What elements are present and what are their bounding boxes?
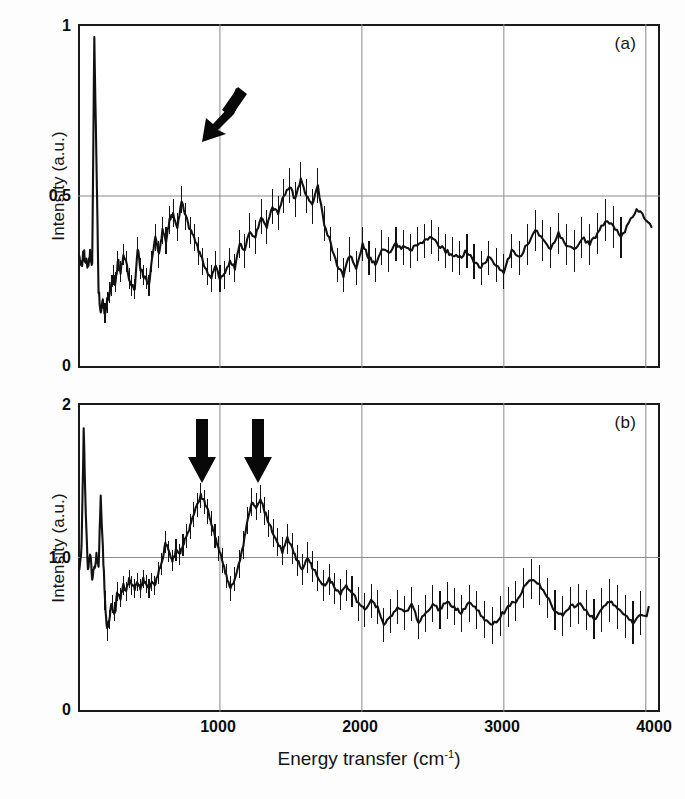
panel-b-ytick-0: 0 [62,702,71,718]
xtick-4000: 4000 [636,719,672,735]
figure-container: 1 0.5 0 Intensity (a.u.) (a) 2 1.0 0 100… [0,0,685,799]
xtick-1000: 1000 [200,719,236,735]
xtick-2000: 2000 [342,719,378,735]
panel-b: 2 1.0 0 1000 2000 3000 4000 Intensity (a… [78,403,660,712]
xaxis-caption-tail: ) [454,748,460,769]
panel-b-plot [78,403,660,712]
panel-a-plot [78,24,660,368]
down-arrow-1250-icon [243,419,273,483]
panel-b-ytick-2: 2 [62,397,71,413]
xaxis-caption: Energy transfer (cm-1) [78,748,660,770]
panel-a-ylabel: Intensity (a.u.) [49,131,69,240]
panel-b-tag: (b) [615,413,636,433]
panel-b-ylabel: Intensity (a.u.) [49,493,69,602]
xaxis-caption-exponent: -1 [444,748,454,760]
panel-a-ytick-1: 1 [62,18,71,34]
down-arrow-900-icon [187,419,217,483]
panel-a: 1 0.5 0 Intensity (a.u.) (a) [78,24,660,368]
xtick-3000: 3000 [484,719,520,735]
panel-a-ytick-0: 0 [62,358,71,374]
diagonal-arrow-down-left-icon [168,84,250,144]
xaxis-caption-main: Energy transfer (cm [278,748,445,769]
panel-a-tag: (a) [615,34,636,54]
